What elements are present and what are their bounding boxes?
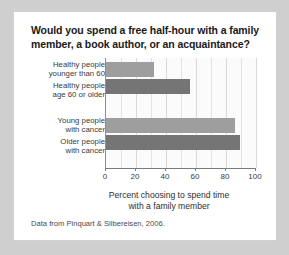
chart-title-line-1: Would you spend a free half-hour with a … [31,24,263,38]
category-label-line-1: Older people [14,137,105,146]
gridline [181,58,182,168]
x-axis-title: Percent choosing to spend time with a fa… [74,190,264,211]
category-label-young-cancer: Young people with cancer [14,116,105,134]
chart-card: Would you spend a free half-hour with a … [13,11,277,241]
gridline [211,58,212,168]
x-axis-tick-label: 40 [152,172,178,181]
gridline [166,58,167,168]
x-axis-tick-label: 0 [92,172,118,181]
x-axis-tick [135,168,136,171]
bar [106,79,190,94]
x-axis-tick-label: 60 [182,172,208,181]
category-label-healthy-younger: Healthy people younger than 60 [14,60,105,78]
bar [106,62,154,77]
category-axis-labels: Healthy people younger than 60 Healthy p… [14,58,105,168]
x-axis-tick [195,168,196,171]
x-axis-tick-label: 20 [122,172,148,181]
source-note: Data from Pinquart & Silbereisen, 2006. [31,219,165,228]
category-label-line-1: Healthy people [14,81,105,90]
category-label-line-2: younger than 60 [14,69,105,78]
chart-title-line-2: member, a book author, or an acquaintanc… [31,38,263,52]
x-axis-tick [105,168,106,171]
plot-area: Healthy people younger than 60 Healthy p… [14,58,278,180]
gridline [241,58,242,168]
x-axis-line [105,168,256,169]
x-axis-tick [255,168,256,171]
x-axis-tick-label: 80 [212,172,238,181]
page-background: Would you spend a free half-hour with a … [0,0,289,255]
gridline [196,58,197,168]
category-label-line-2: age 60 or older [14,90,105,99]
category-label-line-1: Healthy people [14,60,105,69]
category-label-line-1: Young people [14,116,105,125]
category-label-line-2: with cancer [14,146,105,155]
x-axis-title-line-1: Percent choosing to spend time [74,190,264,201]
page-title: Would you spend a free half-hour with a … [31,24,263,51]
gridline [226,58,227,168]
category-label-healthy-older: Healthy people age 60 or older [14,81,105,99]
x-axis-tick [165,168,166,171]
gridline [256,58,257,168]
bar [106,135,240,150]
x-axis-title-line-2: with a family member [74,201,264,212]
plot-canvas [105,58,256,168]
bar [106,118,235,133]
category-label-line-2: with cancer [14,125,105,134]
x-axis-tick [225,168,226,171]
x-axis-tick-label: 100 [242,172,268,181]
category-label-older-cancer: Older people with cancer [14,137,105,155]
